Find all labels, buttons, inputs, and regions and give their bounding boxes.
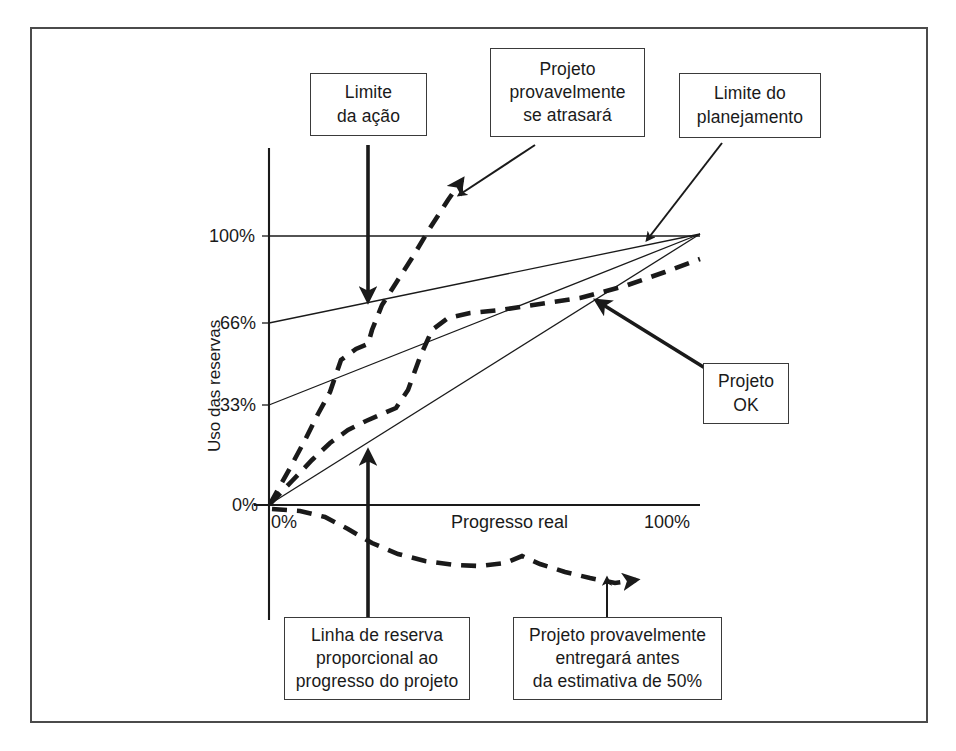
figure-root: Uso das reservas Progresso real 100% 66%… <box>0 0 956 751</box>
x-tick-label-100: 100% <box>644 512 690 533</box>
callout-limite-acao-text: Limite da ação <box>337 81 400 127</box>
callout-entrega-antes: Projeto provavelmente entregará antes da… <box>513 617 722 700</box>
callout-limite-acao: Limite da ação <box>310 73 427 136</box>
y-tick-label-100: 100% <box>209 226 255 247</box>
y-axis-title: Uso das reservas <box>205 320 225 452</box>
callout-projeto-atrasara-text: Projeto provavelmente se atrasará <box>509 58 625 127</box>
x-axis-title: Progresso real <box>451 512 568 533</box>
callout-projeto-ok-text: Projeto OK <box>718 370 774 416</box>
y-tick-label-66: 66% <box>220 313 256 334</box>
callout-linha-reserva-text: Linha de reserva proporcional ao progres… <box>296 624 459 693</box>
callout-linha-reserva: Linha de reserva proporcional ao progres… <box>284 617 470 700</box>
callout-projeto-atrasara: Projeto provavelmente se atrasará <box>490 48 645 137</box>
callout-limite-planejamento: Limite do planejamento <box>679 73 821 138</box>
callout-projeto-ok: Projeto OK <box>703 363 789 424</box>
y-tick-label-33: 33% <box>220 395 256 416</box>
callout-entrega-antes-text: Projeto provavelmente entregará antes da… <box>529 624 706 693</box>
callout-limite-planejamento-text: Limite do planejamento <box>697 82 803 128</box>
y-tick-label-0: 0% <box>232 495 258 516</box>
x-tick-label-0: 0% <box>271 512 297 533</box>
